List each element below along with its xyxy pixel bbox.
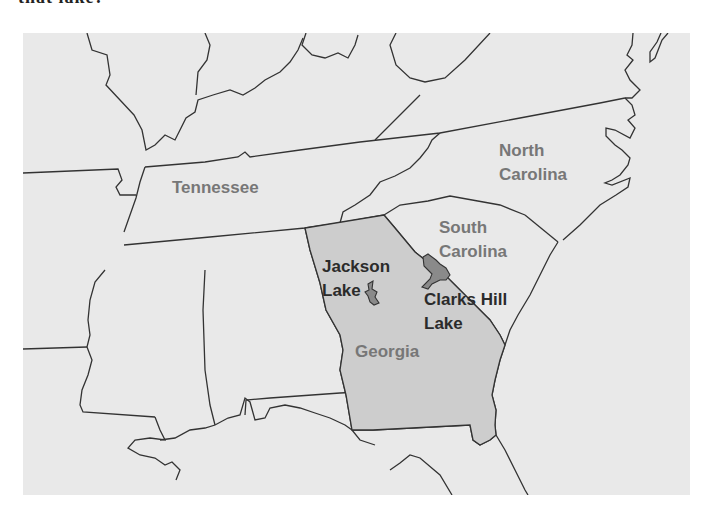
label-south-carolina-line1: South (439, 216, 487, 240)
label-clarks-hill-lake-line1: Clarks Hill (424, 288, 507, 312)
label-south-carolina-line2: Carolina (439, 240, 507, 264)
label-jackson-lake-line2: Lake (322, 279, 361, 303)
question-text-fragment: that lake? (18, 0, 105, 8)
label-tennessee: Tennessee (172, 176, 259, 200)
label-north-carolina-line1: North (499, 139, 544, 163)
label-clarks-hill-lake-line2: Lake (424, 312, 463, 336)
label-georgia: Georgia (355, 340, 419, 364)
label-north-carolina-line2: Carolina (499, 163, 567, 187)
southeast-us-map: Tennessee North Carolina South Carolina … (23, 33, 690, 495)
label-jackson-lake-line1: Jackson (322, 255, 390, 279)
